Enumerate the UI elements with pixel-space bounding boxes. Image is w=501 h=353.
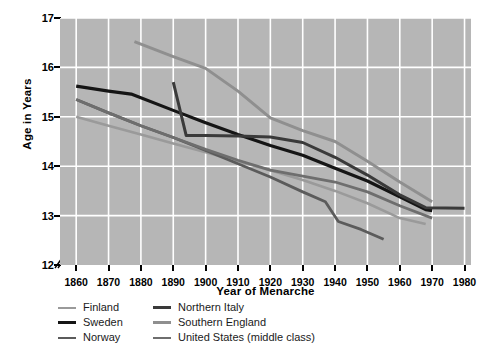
x-axis-tick-mark: [140, 265, 142, 271]
legend-item-label: Southern England: [178, 317, 266, 328]
y-axis-title: Age in Years: [21, 59, 33, 169]
legend-item-label: Finland: [83, 302, 119, 313]
x-axis-tick-mark: [302, 265, 304, 271]
legend-line-swatch: [58, 321, 76, 324]
legend-line-swatch: [153, 321, 171, 324]
series-line: [173, 82, 464, 208]
legend-item-label: Northern Italy: [178, 302, 244, 313]
plot-lines: [60, 18, 471, 265]
legend-item: Southern England: [153, 315, 453, 330]
x-axis-tick-mark: [205, 265, 207, 271]
legend-column-right: Northern ItalySouthern EnglandUnited Sta…: [153, 300, 453, 345]
x-axis-tick-mark: [75, 265, 77, 271]
legend-item: Sweden: [58, 315, 153, 330]
x-axis-tick-labels: 1860187018801890190019101920193019401950…: [60, 270, 471, 286]
legend-column-left: FinlandSwedenNorway: [58, 300, 153, 345]
legend-line-swatch: [153, 306, 171, 309]
chart-figure: 121314151617 Age in Years 18601870188018…: [0, 0, 501, 353]
legend-item-label: Sweden: [83, 317, 123, 328]
legend-line-swatch: [58, 307, 76, 309]
x-axis-tick-mark: [366, 265, 368, 271]
legend-item: Northern Italy: [153, 300, 453, 315]
x-axis-tick-mark: [431, 265, 433, 271]
legend-item-label: Norway: [83, 332, 120, 343]
series-line: [134, 42, 432, 202]
x-axis-tick-mark: [399, 265, 401, 271]
plot-area: [60, 18, 471, 265]
y-axis-tick-label: 12: [26, 260, 54, 271]
x-axis-tick-mark: [464, 265, 466, 271]
legend-line-swatch: [58, 337, 76, 339]
x-axis-tick-mark: [269, 265, 271, 271]
legend-item-label: United States (middle class): [178, 332, 315, 343]
x-axis-tick-mark: [108, 265, 110, 271]
x-axis-title: Year of Menarche: [60, 285, 471, 297]
chart-legend: FinlandSwedenNorway Northern ItalySouthe…: [58, 300, 458, 350]
x-axis-tick-mark: [237, 265, 239, 271]
y-axis-tick-label: 13: [26, 211, 54, 222]
legend-item: Finland: [58, 300, 153, 315]
y-axis-tick-label: 17: [26, 13, 54, 24]
legend-item: Norway: [58, 330, 153, 345]
x-axis-tick-mark: [172, 265, 174, 271]
legend-item: United States (middle class): [153, 330, 453, 345]
x-axis-tick-mark: [334, 265, 336, 271]
legend-line-swatch: [153, 337, 171, 339]
